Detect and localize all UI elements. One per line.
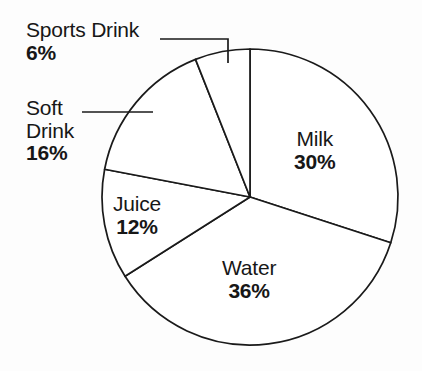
slice-label-milk-value: 30% xyxy=(294,151,335,174)
slice-label-juice: Juice 12% xyxy=(113,193,161,238)
slice-label-milk: Milk 30% xyxy=(294,128,335,173)
slice-label-sports-drink-value: 6% xyxy=(26,42,139,65)
slice-label-soft-drink-value: 16% xyxy=(26,142,74,165)
slice-label-juice-name: Juice xyxy=(113,193,161,216)
slice-label-soft-drink: Soft Drink 16% xyxy=(26,97,74,165)
slice-label-sports-drink-name: Sports Drink xyxy=(26,19,139,42)
slice-label-water-value: 36% xyxy=(222,280,276,303)
slice-label-water: Water 36% xyxy=(222,257,276,302)
slice-label-water-name: Water xyxy=(222,257,276,280)
slice-label-sports-drink: Sports Drink 6% xyxy=(26,19,139,64)
pie-chart-screenshot: Sports Drink 6% Soft Drink 16% Milk 30% … xyxy=(0,0,422,371)
slice-label-milk-name: Milk xyxy=(294,128,335,151)
slice-label-juice-value: 12% xyxy=(113,216,161,239)
slice-label-soft-drink-name-line1: Soft xyxy=(26,97,74,120)
slice-label-soft-drink-name-line2: Drink xyxy=(26,120,74,143)
